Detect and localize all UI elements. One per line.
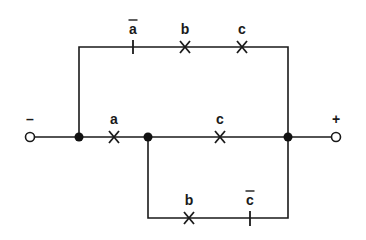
middle-contact-c: c (215, 111, 225, 143)
bottom-contact-b: b (184, 192, 194, 224)
contact-label: c (216, 111, 224, 127)
negative-terminal-label: – (26, 111, 34, 127)
middle-contact-a: a (109, 111, 119, 143)
contact-label: b (185, 192, 194, 208)
junction-node-left (75, 133, 84, 142)
junction-node-right (284, 133, 293, 142)
top-contact-b: b (180, 21, 190, 53)
top-contact-a-negated: a (129, 20, 138, 54)
positive-terminal (332, 133, 341, 142)
negative-terminal (26, 133, 35, 142)
positive-terminal-label: + (332, 111, 340, 127)
top-contact-c: c (237, 21, 247, 53)
contact-label: c (246, 192, 254, 208)
junction-node-middle (144, 133, 153, 142)
contact-label: c (238, 21, 246, 37)
contact-label: b (181, 21, 190, 37)
bottom-contact-c-negated: c (246, 191, 255, 226)
bottom-branch-wire (148, 137, 288, 218)
circuit-diagram: – + a b c a c b c (0, 0, 366, 240)
contact-label: a (110, 111, 118, 127)
contact-label: a (129, 21, 137, 37)
